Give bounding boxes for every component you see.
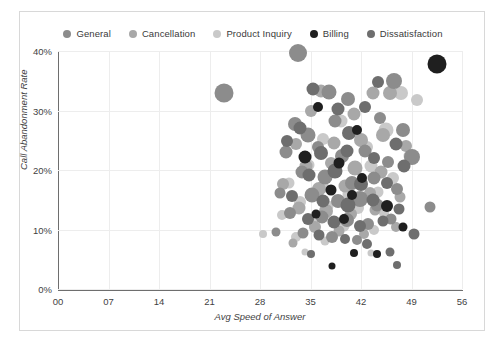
data-point-bubble[interactable]	[339, 214, 349, 224]
data-point-bubble[interactable]	[373, 250, 381, 258]
data-point-bubble[interactable]	[366, 193, 379, 206]
data-point-bubble[interactable]	[385, 248, 394, 257]
data-point-bubble[interactable]	[284, 207, 296, 219]
data-point-bubble[interactable]	[377, 216, 388, 227]
data-point-bubble[interactable]	[425, 201, 436, 212]
data-point-bubble[interactable]	[381, 177, 393, 189]
data-point-bubble[interactable]	[326, 231, 338, 243]
plot-wrapper: Call Abandonment Rate 0%10%20%30%40%0007…	[20, 12, 486, 332]
data-point-bubble[interactable]	[313, 102, 323, 112]
data-point-bubble[interactable]	[331, 103, 344, 116]
data-point-bubble[interactable]	[428, 55, 447, 74]
data-point-bubble[interactable]	[281, 135, 293, 147]
data-point-bubble[interactable]	[367, 172, 380, 185]
y-axis-tick-label: 30%	[33, 105, 58, 116]
x-axis-tick-label: 35	[305, 289, 316, 307]
y-axis-label: Call Abandonment Rate	[18, 69, 29, 170]
data-point-bubble[interactable]	[329, 114, 342, 127]
data-point-bubble[interactable]	[352, 235, 362, 245]
data-point-bubble[interactable]	[325, 185, 336, 196]
gridline-vertical	[462, 51, 463, 289]
data-point-bubble[interactable]	[340, 144, 353, 157]
data-point-bubble[interactable]	[366, 87, 379, 100]
data-point-bubble[interactable]	[289, 238, 298, 247]
data-point-bubble[interactable]	[350, 249, 358, 257]
data-point-bubble[interactable]	[393, 204, 404, 215]
data-point-bubble[interactable]	[307, 83, 320, 96]
data-point-bubble[interactable]	[362, 239, 372, 249]
data-point-bubble[interactable]	[329, 263, 336, 270]
x-axis-tick-label: 42	[356, 289, 367, 307]
x-axis-tick-label: 07	[103, 289, 114, 307]
data-point-bubble[interactable]	[298, 228, 309, 239]
gridline-horizontal	[58, 51, 462, 52]
data-point-bubble[interactable]	[382, 156, 394, 168]
data-point-bubble[interactable]	[275, 187, 286, 198]
data-point-bubble[interactable]	[411, 94, 423, 106]
y-axis-tick-label: 40%	[33, 46, 58, 57]
data-point-bubble[interactable]	[341, 92, 355, 106]
data-point-bubble[interactable]	[398, 160, 411, 173]
data-point-bubble[interactable]	[359, 101, 371, 113]
plot-area: 0%10%20%30%40%000714212835424956	[58, 51, 462, 289]
data-point-bubble[interactable]	[393, 261, 401, 269]
data-point-bubble[interactable]	[286, 190, 298, 202]
data-point-bubble[interactable]	[298, 150, 311, 163]
data-point-bubble[interactable]	[307, 250, 315, 258]
gridline-horizontal	[58, 111, 462, 112]
y-axis-tick-label: 10%	[33, 224, 58, 235]
data-point-bubble[interactable]	[314, 230, 325, 241]
x-axis-tick-label: 21	[204, 289, 215, 307]
data-point-bubble[interactable]	[294, 122, 307, 135]
data-point-bubble[interactable]	[389, 137, 402, 150]
x-axis-label: Avg Speed of Answer	[58, 311, 462, 322]
x-axis-tick-label: 00	[53, 289, 64, 307]
x-axis-tick-label: 14	[154, 289, 165, 307]
data-point-bubble[interactable]	[357, 173, 367, 183]
data-point-bubble[interactable]	[376, 128, 390, 142]
x-axis-tick-label: 56	[457, 289, 468, 307]
x-axis-tick-label: 28	[255, 289, 266, 307]
data-point-bubble[interactable]	[327, 136, 340, 149]
data-point-bubble[interactable]	[303, 168, 316, 181]
data-point-bubble[interactable]	[317, 194, 330, 207]
data-point-bubble[interactable]	[289, 44, 307, 62]
data-point-bubble[interactable]	[340, 234, 350, 244]
data-point-bubble[interactable]	[372, 76, 384, 88]
data-point-bubble[interactable]	[391, 183, 403, 195]
y-axis-tick-label: 20%	[33, 165, 58, 176]
chart-frame: GeneralCancellationProduct InquiryBillin…	[19, 11, 485, 331]
data-point-bubble[interactable]	[322, 85, 337, 100]
data-point-bubble[interactable]	[354, 220, 366, 232]
data-point-bubble[interactable]	[214, 83, 233, 102]
data-point-bubble[interactable]	[314, 146, 328, 160]
data-point-bubble[interactable]	[368, 152, 380, 164]
data-point-bubble[interactable]	[374, 112, 386, 124]
data-point-bubble[interactable]	[347, 108, 360, 121]
data-point-bubble[interactable]	[386, 73, 402, 89]
x-axis-tick-label: 49	[406, 289, 417, 307]
data-point-bubble[interactable]	[271, 228, 280, 237]
data-point-bubble[interactable]	[312, 210, 321, 219]
data-point-bubble[interactable]	[398, 223, 407, 232]
data-point-bubble[interactable]	[396, 123, 410, 137]
data-point-bubble[interactable]	[259, 230, 267, 238]
data-point-bubble[interactable]	[381, 200, 393, 212]
data-point-bubble[interactable]	[334, 157, 345, 168]
data-point-bubble[interactable]	[347, 190, 357, 200]
data-point-bubble[interactable]	[352, 125, 362, 135]
data-point-bubble[interactable]	[409, 229, 420, 240]
